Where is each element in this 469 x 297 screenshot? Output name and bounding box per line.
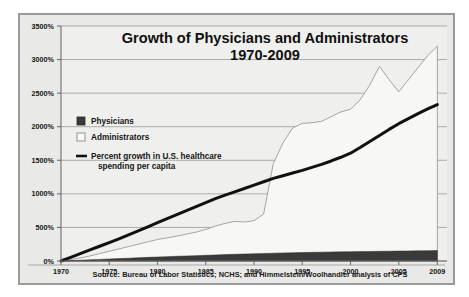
chart-title-line1: Growth of Physicians and Administrators bbox=[122, 30, 409, 46]
y-axis-tick-label: 3500% bbox=[32, 22, 55, 31]
y-axis-tick-label: 0% bbox=[44, 257, 55, 266]
legend-label-spending-line1: Percent growth in U.S. healthcare bbox=[91, 152, 222, 161]
y-axis-tick-label: 2500% bbox=[32, 89, 55, 98]
growth-chart-svg: 0%500%1000%1500%2000%2500%3000%3500% 197… bbox=[20, 15, 453, 283]
legend-swatch-administrators bbox=[77, 133, 85, 141]
chart-plot-container: 0%500%1000%1500%2000%2500%3000%3500% 197… bbox=[20, 15, 453, 283]
source-note: Source: Bureau of Labor Statistics; NCHS… bbox=[93, 270, 408, 279]
x-axis-tick-label: 2009 bbox=[429, 267, 445, 276]
chart-title-line2: 1970-2009 bbox=[230, 47, 300, 63]
y-axis-tick-label: 2000% bbox=[32, 122, 55, 131]
y-axis-tick-labels: 0%500%1000%1500%2000%2500%3000%3500% bbox=[32, 22, 61, 266]
x-axis-tick-label: 1970 bbox=[53, 267, 69, 276]
legend-label-physicians: Physicians bbox=[91, 117, 134, 126]
chart-figure: 0%500%1000%1500%2000%2500%3000%3500% 197… bbox=[18, 13, 455, 285]
legend-label-administrators: Administrators bbox=[91, 133, 150, 142]
legend-label-spending-line2: spending per capita bbox=[98, 162, 176, 171]
y-axis-tick-label: 1000% bbox=[32, 189, 55, 198]
y-axis-tick-label: 500% bbox=[36, 223, 55, 232]
y-axis-tick-label: 3000% bbox=[32, 55, 55, 64]
y-axis-tick-label: 1500% bbox=[32, 156, 55, 165]
legend-swatch-physicians bbox=[77, 117, 85, 125]
